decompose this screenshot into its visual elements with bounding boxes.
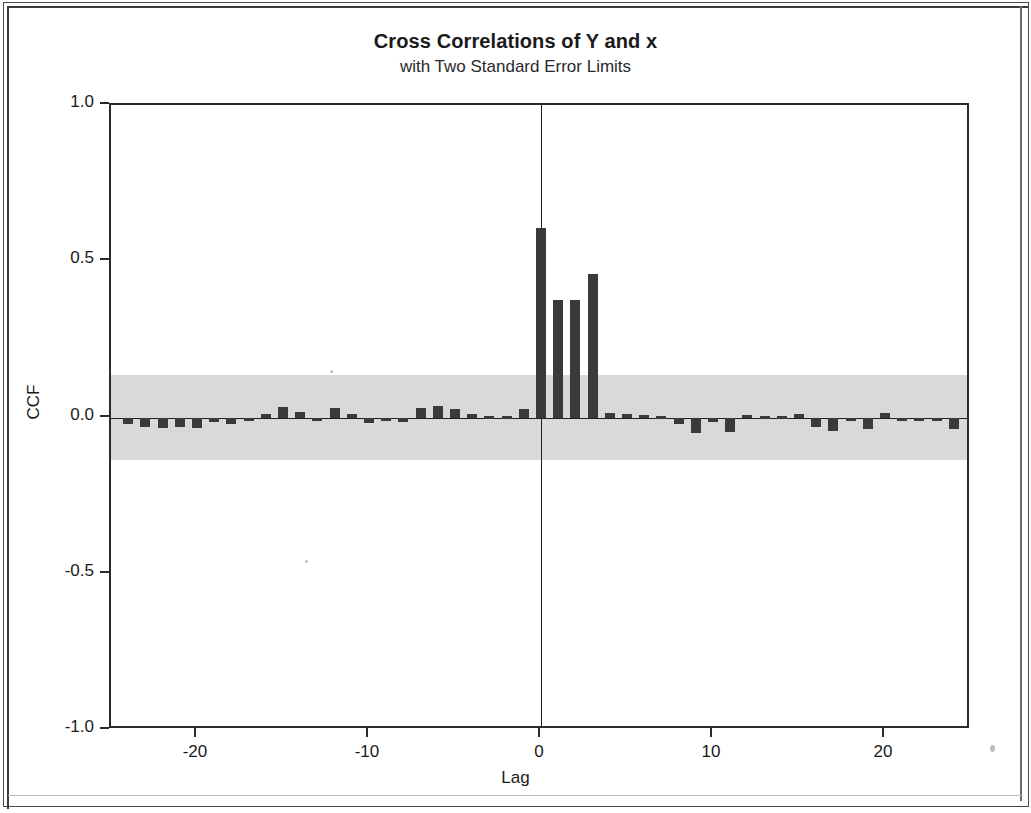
ccf-bar [553,300,563,417]
x-axis-tick-label: 0 [509,742,569,762]
ccf-bar [175,418,185,427]
y-axis-tick [100,415,109,417]
ccf-bar [588,274,598,418]
ccf-chart: Cross Correlations of Y and x with Two S… [0,0,1031,813]
ccf-bar [880,413,890,417]
window-frame: Cross Correlations of Y and x with Two S… [0,0,1031,813]
ccf-bar [932,418,942,422]
ccf-bar [381,418,391,421]
y-axis-tick [100,102,109,104]
y-axis-tick [100,571,109,573]
zero-reference-line [111,418,967,419]
y-axis-tick-label: 0.0 [32,405,94,425]
y-axis-tick-label: -0.5 [32,561,94,581]
y-axis-tick-label: 0.5 [32,248,94,268]
x-axis-tick [366,728,368,737]
scan-speck [330,370,333,373]
x-axis-tick-label: -20 [165,742,225,762]
ccf-bar [863,418,873,429]
ccf-bar [811,418,821,427]
ccf-bar [261,414,271,418]
ccf-bar [123,418,133,425]
ccf-bar [949,418,959,430]
scan-speck [990,745,995,752]
ccf-bar [828,418,838,431]
x-axis-tick [882,728,884,737]
ccf-bar [347,414,357,418]
plot-area [109,103,969,728]
chart-title: Cross Correlations of Y and x [0,30,1031,53]
ccf-bar [295,412,305,418]
x-axis-tick [194,728,196,737]
ccf-bar [312,418,322,421]
ccf-bar [450,409,460,418]
ccf-bar [760,416,770,419]
ccf-bar [570,300,580,417]
ccf-bar [226,418,236,425]
ccf-bar [364,418,374,424]
x-axis-tick [710,728,712,737]
ccf-bar [794,414,804,417]
ccf-bar [192,418,202,428]
ccf-bar [140,418,150,427]
x-axis-tick-label: -10 [337,742,397,762]
ccf-bar [622,414,632,417]
ccf-bar [158,418,168,429]
y-axis-tick [100,727,109,729]
x-axis-tick-label: 10 [681,742,741,762]
ccf-bar [502,416,512,419]
x-axis-tick [538,728,540,737]
ccf-bar [708,418,718,422]
ccf-bar [846,418,856,422]
ccf-bar [656,416,666,419]
y-axis-title: CCF [24,362,44,442]
ccf-bar [209,418,219,423]
y-axis-tick-label: -1.0 [32,717,94,737]
ccf-bar [484,416,494,419]
ccf-bar [605,413,615,417]
y-axis-tick-label: 1.0 [32,92,94,112]
ccf-bar [416,408,426,417]
ccf-bar [330,408,340,417]
ccf-bar [674,418,684,424]
ccf-bar [742,415,752,418]
ccf-bar [278,407,288,417]
ccf-bar [725,418,735,432]
chart-subtitle: with Two Standard Error Limits [0,57,1031,77]
ccf-bar [467,414,477,417]
ccf-bar [639,415,649,418]
ccf-bar [519,409,529,418]
ccf-bar [398,418,408,422]
ccf-bar [777,416,787,419]
ccf-bar [897,418,907,421]
y-axis-tick [100,258,109,260]
x-axis-title: Lag [0,768,1031,788]
ccf-bar [691,418,701,434]
ccf-bar [244,418,254,421]
ccf-bar [536,228,546,417]
ccf-bar [914,418,924,421]
x-axis-tick-label: 20 [853,742,913,762]
ccf-bar [433,406,443,418]
scan-speck [305,560,308,563]
